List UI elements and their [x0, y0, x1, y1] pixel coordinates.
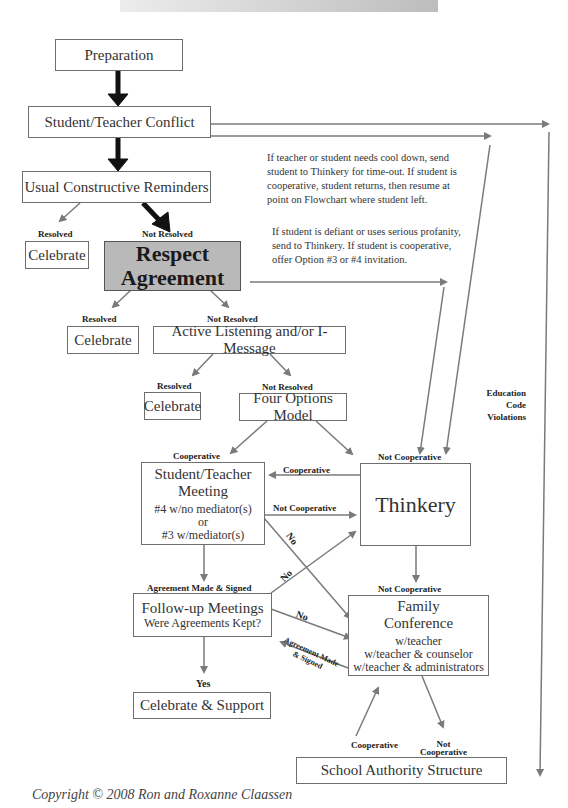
meeting-sub-1: #4 w/no mediator(s): [154, 503, 251, 516]
label-resolved-3: Resolved: [157, 381, 192, 391]
cooperative-text: Cooperative: [420, 748, 467, 756]
four-options-box: Four Options Model: [239, 393, 347, 421]
celebrate-box-2: Celebrate: [67, 326, 139, 354]
celebrate-box-1: Celebrate: [25, 241, 89, 269]
followup-sub: Were Agreements Kept?: [144, 617, 261, 630]
thinkery-label: Thinkery: [375, 493, 456, 517]
school-authority-label: School Authority Structure: [321, 762, 483, 779]
preparation-box: Preparation: [55, 39, 183, 71]
celebrate-box-3: Celebrate: [144, 392, 201, 420]
edu-line-2: Code: [480, 399, 526, 411]
copyright: Copyright © 2008 Ron and Roxanne Claasse…: [32, 787, 292, 803]
note-defiant: If student is defiant or uses serious pr…: [272, 225, 472, 267]
family-sub-1: w/teacher: [395, 635, 442, 648]
label-not-cooperative-4: Not Cooperative: [420, 740, 467, 756]
school-authority-box: School Authority Structure: [296, 757, 507, 784]
four-options-label: Four Options Model: [240, 390, 346, 424]
family-title-2: Conference: [384, 615, 453, 632]
respect-label-1: Respect: [136, 242, 209, 266]
respect-label-2: Agreement: [121, 266, 224, 290]
active-listening-label: Active Listening and/or I-Message: [154, 323, 345, 357]
reminders-label: Usual Constructive Reminders: [24, 179, 208, 196]
followup-title: Follow-up Meetings: [141, 600, 263, 617]
follow-up-meetings-box: Follow-up Meetings Were Agreements Kept?: [133, 593, 272, 637]
celebrate-label-2: Celebrate: [74, 332, 131, 349]
label-cooperative-1: Cooperative: [173, 451, 220, 461]
label-not-cooperative-1: Not Cooperative: [378, 452, 441, 462]
family-conference-box: Family Conference w/teacher w/teacher & …: [348, 595, 489, 676]
conflict-box: Student/Teacher Conflict: [28, 106, 211, 138]
label-not-cooperative-2: Not Cooperative: [273, 503, 336, 513]
family-title-1: Family: [397, 598, 440, 615]
label-cooperative-2: Cooperative: [283, 465, 330, 475]
family-sub-3: w/teacher & administrators: [353, 661, 484, 674]
conflict-label: Student/Teacher Conflict: [44, 114, 194, 131]
label-resolved-1: Resolved: [38, 229, 73, 239]
respect-agreement-box: Respect Agreement: [104, 241, 241, 291]
reminders-box: Usual Constructive Reminders: [22, 171, 211, 203]
note-cool-down: If teacher or student needs cool down, s…: [267, 151, 467, 207]
label-resolved-2: Resolved: [82, 314, 117, 324]
meeting-title-1: Student/Teacher: [154, 466, 251, 483]
family-sub-2: w/teacher & counselor: [364, 648, 473, 661]
thick-arrows: [108, 70, 170, 232]
celebrate-support-label: Celebrate & Support: [140, 697, 264, 714]
celebrate-support-box: Celebrate & Support: [133, 692, 271, 719]
active-listening-box: Active Listening and/or I-Message: [153, 326, 346, 354]
meeting-sub-3: #3 w/mediator(s): [162, 529, 244, 542]
edu-line-1: Education: [480, 387, 526, 399]
label-yes: Yes: [196, 678, 210, 689]
preparation-label: Preparation: [84, 47, 153, 64]
label-agreement-made-signed: Agreement Made & Signed: [147, 583, 252, 593]
gray-arrows: [60, 124, 549, 775]
edu-line-3: Violations: [480, 411, 526, 423]
meeting-sub-2: or: [198, 516, 208, 529]
student-teacher-meeting-box: Student/Teacher Meeting #4 w/no mediator…: [141, 462, 265, 545]
meeting-title-2: Meeting: [178, 483, 228, 500]
label-cooperative-3: Cooperative: [351, 740, 398, 750]
celebrate-label-1: Celebrate: [28, 247, 85, 264]
label-education-code-violations: Education Code Violations: [480, 387, 526, 423]
thinkery-box: Thinkery: [360, 463, 471, 546]
celebrate-label-3: Celebrate: [144, 398, 201, 415]
label-not-cooperative-3: Not Cooperative: [378, 584, 441, 594]
label-not-resolved-1: Not Resolved: [142, 229, 193, 239]
